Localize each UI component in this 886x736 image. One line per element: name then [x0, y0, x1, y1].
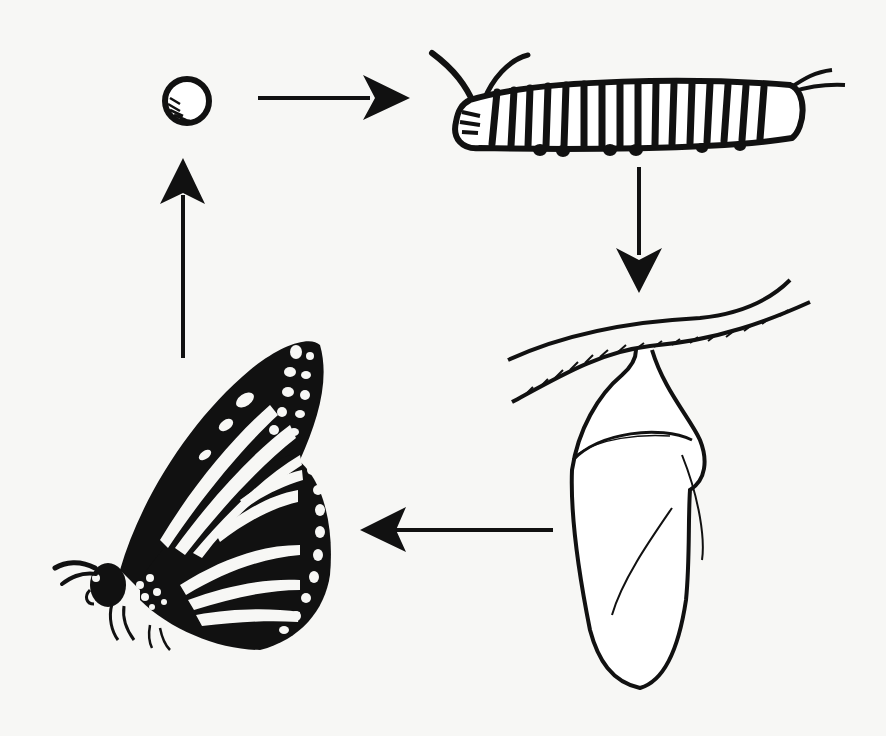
arrow-up-icon	[160, 158, 205, 358]
arrow-right-icon	[258, 75, 410, 120]
life-cycle-diagram: Monarch butterfly life cycle Egg	[0, 0, 886, 736]
arrow-left-icon	[360, 507, 553, 552]
caterpillar-illustration: Caterpillar (larva)	[432, 53, 845, 157]
arrow-down-icon	[616, 167, 662, 293]
egg-illustration: Egg	[165, 79, 209, 123]
chrysalis-illustration: Chrysalis (pupa)	[508, 280, 810, 688]
butterfly-illustration: Adult butterfly	[55, 341, 331, 650]
